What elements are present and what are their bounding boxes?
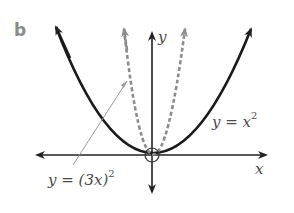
- label-y-equals-3x-squared-text: y = (3x): [48, 171, 108, 189]
- curve-y-equals-3x-squared: [124, 29, 185, 155]
- y-axis-label: y: [158, 28, 166, 46]
- part-label: b: [14, 20, 26, 40]
- curve-y-equals-x-squared-left-tip: [56, 27, 70, 58]
- label-y-equals-x-squared-text: y = x: [212, 113, 251, 131]
- leader-line: [73, 81, 127, 165]
- curve-y-equals-x-squared: [56, 27, 251, 153]
- diagram-canvas: b y x y = x2 y = (3x)2: [0, 0, 294, 213]
- label-y-equals-3x-squared: y = (3x)2: [48, 170, 115, 189]
- graph-svg: [0, 0, 294, 213]
- label-exponent: 2: [251, 110, 257, 121]
- x-axis-label: x: [255, 160, 263, 178]
- leader-arrow-icon: [121, 81, 127, 88]
- label-y-equals-x-squared: y = x2: [212, 112, 257, 131]
- label-exponent: 2: [108, 168, 114, 179]
